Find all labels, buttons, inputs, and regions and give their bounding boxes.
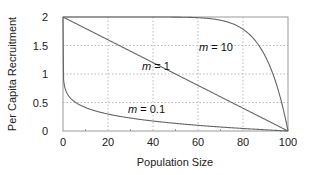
y-tick-label: 0.5 [33,97,48,109]
y-tick-label: 1.5 [33,40,48,52]
y-tick-label: 0 [42,125,48,137]
axis-ticks: 02040608010000.511.52 [33,11,297,148]
population-recruitment-chart: 02040608010000.511.52 m = 0.1m = 1m = 10… [0,0,316,175]
x-tick-label: 0 [60,136,66,148]
series-lines [63,17,288,131]
curve-annotations: m = 0.1m = 1m = 10 [128,41,233,115]
x-tick-label: 100 [279,136,297,148]
annotation-m-0.1: m = 0.1 [128,103,165,115]
x-tick-label: 60 [192,136,204,148]
y-tick-label: 1 [42,68,48,80]
y-tick-label: 2 [42,11,48,23]
series-line-m-1 [63,17,288,131]
y-axis-label: Per Capita Recruitment [6,17,18,131]
x-tick-label: 80 [237,136,249,148]
annotation-m-1: m = 1 [142,60,170,72]
x-tick-label: 20 [102,136,114,148]
x-tick-label: 40 [147,136,159,148]
x-axis-label: Population Size [137,156,213,168]
annotation-m-10: m = 10 [199,41,233,53]
